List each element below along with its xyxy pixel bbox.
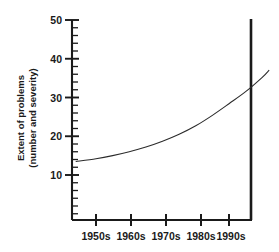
- y-axis-title-line2: (number and severity): [27, 68, 38, 167]
- y-tick-label-20: 20: [50, 130, 62, 142]
- x-tick-label-1980s: 1980s: [186, 230, 215, 242]
- x-tick-label-1970s: 1970s: [151, 230, 180, 242]
- y-tick-label-40: 40: [50, 53, 62, 65]
- y-tick-label-30: 30: [50, 92, 62, 104]
- y-axis-title: Extent of problems (number and severity): [15, 68, 38, 167]
- y-tick-label-10: 10: [50, 169, 62, 181]
- y-tick-label-50: 50: [50, 14, 62, 26]
- x-tick-label-1950s: 1950s: [81, 230, 110, 242]
- y-axis-title-line1: Extent of problems: [15, 75, 26, 161]
- chart-container: 50 40 30 20 10 Extent of problems (numbe…: [0, 0, 279, 252]
- chart-background: [0, 0, 279, 252]
- x-tick-label-1960s: 1960s: [116, 230, 145, 242]
- extent-of-problems-line-chart: 50 40 30 20 10 Extent of problems (numbe…: [0, 0, 279, 252]
- x-tick-label-1990s: 1990s: [216, 230, 245, 242]
